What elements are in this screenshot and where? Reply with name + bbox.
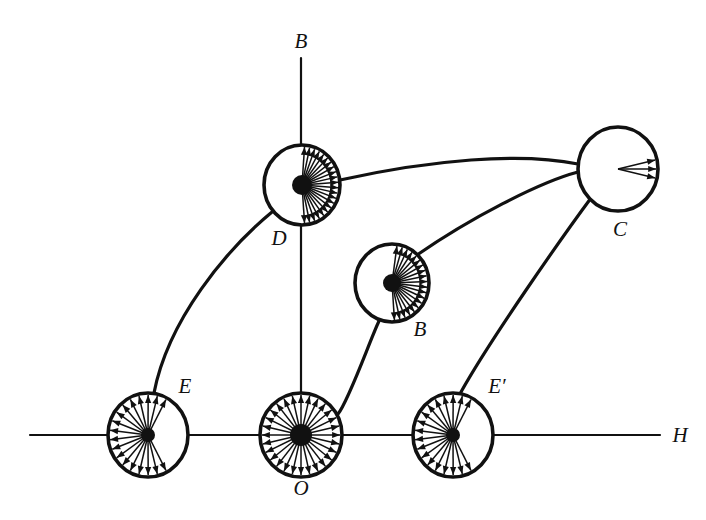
- domain-hub: [383, 274, 401, 292]
- connector-curve-b-to-c: [414, 172, 578, 257]
- domain-hub: [141, 428, 155, 442]
- node-label-b: B: [414, 317, 427, 341]
- connector-curve-e-to-d: [154, 212, 272, 393]
- domain-circle-b: [355, 244, 429, 322]
- domain-hub: [292, 175, 312, 195]
- node-label-e: E: [178, 374, 192, 398]
- node-label-o: O: [293, 476, 308, 500]
- domain-circle-o: [260, 393, 342, 477]
- domain-circle-eprime: [413, 393, 493, 477]
- axis-label-h: H: [671, 423, 689, 447]
- domain-hub: [446, 428, 460, 442]
- domain-circle-c: [578, 127, 658, 211]
- axis-label-b: B: [295, 29, 308, 53]
- node-label-c: C: [613, 217, 628, 241]
- domain-hub: [290, 424, 312, 446]
- domain-circles-group: [108, 127, 658, 477]
- connector-curve-o-to-b: [338, 321, 379, 414]
- connector-curve-eprime-to-c: [461, 198, 591, 392]
- node-label-d: D: [270, 226, 286, 250]
- node-label-eprime: E′: [487, 374, 506, 398]
- axes-group: [30, 58, 660, 446]
- diagram-page: OEE′BDCBH: [0, 0, 706, 520]
- domain-circle-e: [108, 393, 188, 477]
- domain-circle-d: [264, 145, 340, 225]
- connector-curve-d-to-c: [340, 158, 578, 180]
- magnetization-domain-figure: OEE′BDCBH: [0, 0, 706, 520]
